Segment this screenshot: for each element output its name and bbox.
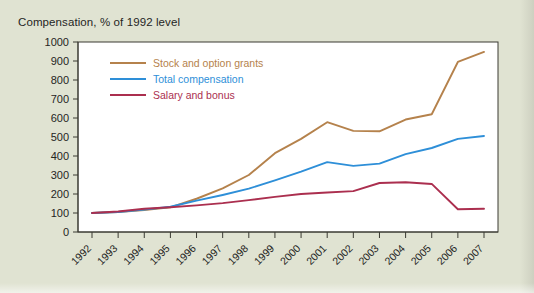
- x-tick-label: 2003: [356, 242, 381, 267]
- x-tick-label: 1999: [251, 242, 276, 267]
- x-tick-label: 1996: [173, 242, 198, 267]
- plot-area-background: [78, 42, 498, 232]
- y-axis: 01002003004005006007008009001000: [45, 36, 78, 238]
- x-tick-label: 2007: [460, 242, 485, 267]
- legend-label: Salary and bonus: [153, 89, 235, 101]
- chart-figure: Compensation, % of 1992 level 0100200300…: [0, 0, 534, 293]
- y-tick-label: 200: [51, 188, 69, 200]
- y-tick-label: 700: [51, 93, 69, 105]
- x-tick-label: 2004: [382, 242, 407, 267]
- x-tick-label: 1994: [121, 242, 146, 267]
- x-tick-label: 2002: [330, 242, 355, 267]
- y-tick-label: 500: [51, 131, 69, 143]
- x-tick-label: 2000: [277, 242, 302, 267]
- y-tick-label: 1000: [45, 36, 69, 48]
- legend-label: Total compensation: [153, 73, 244, 85]
- x-tick-label: 2006: [434, 242, 459, 267]
- x-tick-label: 1998: [225, 242, 250, 267]
- y-tick-label: 0: [63, 226, 69, 238]
- x-tick-label: 1992: [68, 242, 93, 267]
- y-tick-label: 300: [51, 169, 69, 181]
- y-tick-label: 600: [51, 112, 69, 124]
- y-tick-label: 100: [51, 207, 69, 219]
- y-tick-label: 400: [51, 150, 69, 162]
- x-tick-label: 1993: [95, 242, 120, 267]
- x-axis: 1992199319941995199619971998199920002001…: [68, 232, 498, 267]
- legend-label: Stock and option grants: [153, 57, 263, 69]
- x-tick-label: 2001: [304, 242, 329, 267]
- y-tick-label: 900: [51, 55, 69, 67]
- x-tick-label: 1995: [147, 242, 172, 267]
- x-tick-label: 1997: [199, 242, 224, 267]
- y-tick-label: 800: [51, 74, 69, 86]
- x-tick-label: 2005: [408, 242, 433, 267]
- line-chart-plot: 01002003004005006007008009001000 1992199…: [0, 0, 534, 293]
